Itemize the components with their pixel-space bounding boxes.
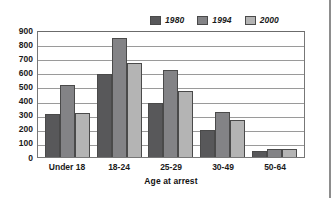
x-axis-title: Age at arrest (37, 176, 305, 186)
bar-1994-18-24 (112, 38, 127, 157)
bar-1980-50-64 (252, 151, 267, 157)
y-tick-label: 0 (28, 154, 33, 163)
bar-group-under-18 (42, 32, 94, 157)
chart-legend: 198019942000 (150, 13, 279, 27)
legend-item-1994: 1994 (197, 16, 231, 25)
bar-group-50-64 (248, 32, 300, 157)
y-tick-label: 800 (19, 41, 33, 50)
y-tick-label: 900 (19, 27, 33, 36)
legend-item-2000: 2000 (245, 16, 279, 25)
y-tick-label: 200 (19, 125, 33, 134)
legend-swatch-icon-2000 (245, 16, 256, 25)
legend-swatch-icon-1980 (150, 16, 161, 25)
bar-1994-25-29 (163, 70, 178, 157)
y-tick-label: 300 (19, 111, 33, 120)
x-tick-label: 30-49 (197, 160, 249, 174)
plot-area (37, 31, 305, 158)
x-axis-tick-labels: Under 1818-2425-2930-4950-64 (37, 160, 305, 174)
bar-1980-18-24 (97, 74, 112, 157)
y-tick-label: 600 (19, 69, 33, 78)
bar-group-30-49 (197, 32, 249, 157)
x-tick-label: 18-24 (93, 160, 145, 174)
y-tick-label: 500 (19, 83, 33, 92)
bar-1994-50-64 (267, 149, 282, 157)
y-tick-label: 700 (19, 55, 33, 64)
bar-group-25-29 (145, 32, 197, 157)
x-tick-label: 50-64 (249, 160, 301, 174)
bar-group-18-24 (94, 32, 146, 157)
y-tick-label: 100 (19, 139, 33, 148)
bar-1994-under-18 (60, 85, 75, 157)
bar-2000-under-18 (75, 113, 90, 157)
bar-2000-25-29 (178, 91, 193, 157)
y-tick-label: 400 (19, 97, 33, 106)
bar-chart-figure: 198019942000 900800700600500400300200100… (0, 0, 331, 198)
legend-swatch-icon-1994 (197, 16, 208, 25)
bar-2000-50-64 (282, 149, 297, 157)
x-tick-label: Under 18 (41, 160, 93, 174)
bar-1980-25-29 (148, 103, 163, 157)
legend-label: 1980 (165, 16, 184, 25)
bar-2000-18-24 (127, 63, 142, 157)
bar-1980-30-49 (200, 130, 215, 157)
legend-label: 1994 (212, 16, 231, 25)
bar-groups (38, 32, 304, 157)
bar-1994-30-49 (215, 112, 230, 157)
legend-label: 2000 (260, 16, 279, 25)
bar-2000-30-49 (230, 120, 245, 157)
x-tick-label: 25-29 (145, 160, 197, 174)
legend-item-1980: 1980 (150, 16, 184, 25)
bar-1980-under-18 (45, 114, 60, 157)
y-axis-tick-labels: 9008007006005004003002001000 (0, 24, 33, 165)
